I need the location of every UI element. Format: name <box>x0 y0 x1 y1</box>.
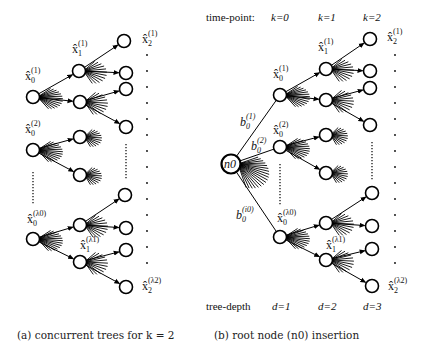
tree-leaf-node <box>364 82 377 95</box>
edge-arrow <box>286 150 320 169</box>
edge-arrow <box>286 225 319 235</box>
panel-b-header: time-point: k=0 k=1 k=2 <box>206 11 381 23</box>
depth-tick-d3: d=3 <box>363 300 382 312</box>
ellipsis-dot <box>394 246 396 248</box>
tree-leaf-node <box>118 35 131 48</box>
edge-arrow <box>39 227 73 237</box>
time-tick-k0: k=0 <box>271 11 289 23</box>
tree-leaf-node <box>120 67 133 80</box>
time-point-label: time-point: <box>206 11 255 23</box>
panel-b-footer: tree-depth d=1 d=2 d=3 <box>206 300 382 312</box>
label-x1-lambda1: x̂1(λ1) <box>326 235 346 254</box>
label-x2-lambda2: x̂2(λ2) <box>142 276 162 295</box>
caption-panel-b: (b) root node (n0) insertion <box>214 329 359 341</box>
ellipsis-dot <box>146 198 148 200</box>
panel-b-trees <box>231 33 379 293</box>
tree <box>274 128 348 183</box>
tree-child-node <box>320 94 333 107</box>
tree-child-node <box>74 169 87 182</box>
ellipsis-dot <box>146 182 148 184</box>
tree-leaf-node <box>120 244 133 257</box>
panel-b-labels: x̂0(1) x̂1(1) x̂2(1) x̂0(2) x̂0(λ0) x̂1(… <box>273 27 408 295</box>
tree-child-node <box>74 219 87 232</box>
ellipsis-dot <box>146 214 148 216</box>
edge-arrow <box>86 91 119 100</box>
tree-depth-label: tree-depth <box>206 300 251 312</box>
tree-root-node <box>274 141 287 154</box>
panel-a-leaf-dots <box>146 54 148 264</box>
diagram-canvas: x̂0(1) x̂1(1) x̂2(1) x̂0(2) x̂0(λ0) x̂1(… <box>0 0 429 363</box>
branch-label-bi0: b0(i0) <box>236 205 254 224</box>
time-tick-k2: k=2 <box>363 11 381 23</box>
label-x0-2: x̂0(2) <box>273 120 289 139</box>
ellipsis-dot <box>146 86 148 88</box>
tree <box>27 130 102 185</box>
tree-leaf-node <box>364 33 377 46</box>
ellipsis-dot <box>394 118 396 120</box>
ellipsis-dot <box>146 150 148 152</box>
root-node-n0: n0 <box>222 155 241 174</box>
ellipsis-dot <box>146 118 148 120</box>
tree-leaf-node <box>366 187 379 200</box>
tree-root-node <box>27 91 40 104</box>
ellipsis-dot <box>146 134 148 136</box>
label-x1-1: x̂1(1) <box>318 37 334 56</box>
ellipsis-dot <box>394 166 396 168</box>
edge-arrow <box>286 240 319 257</box>
tree-leaf-node <box>366 243 379 256</box>
ellipsis-dot <box>146 262 148 264</box>
label-x0-2: x̂0(2) <box>25 119 41 138</box>
label-x1-lambda1: x̂1(λ1) <box>80 235 100 254</box>
tree-leaf-node <box>120 222 133 235</box>
ellipsis-dot <box>146 246 148 248</box>
tree-root-node <box>274 89 287 102</box>
ellipsis-dot <box>394 230 396 232</box>
label-x0-1: x̂0(1) <box>25 66 41 85</box>
tree-leaf-node <box>119 189 132 202</box>
ellipsis-dot <box>394 70 396 72</box>
tree-child-node <box>74 96 87 109</box>
label-x0-lambda0: x̂0(λ0) <box>277 208 297 227</box>
root-branch-edge <box>231 164 280 237</box>
tree-root-node <box>27 233 40 246</box>
ellipsis-dot <box>394 54 396 56</box>
caption-panel-a: (a) concurrent trees for k = 2 <box>17 329 174 341</box>
label-x0-1: x̂0(1) <box>273 64 289 83</box>
ellipsis-dot <box>394 102 396 104</box>
ellipsis-dot <box>394 214 396 216</box>
label-x1-1: x̂1(1) <box>72 39 88 58</box>
label-x0-lambda0: x̂0(λ0) <box>27 209 47 228</box>
tree-root-node <box>274 231 287 244</box>
ellipsis-dot <box>394 198 396 200</box>
depth-tick-d1: d=1 <box>272 300 290 312</box>
ellipsis-dot <box>394 150 396 152</box>
edge-arrow <box>286 137 318 145</box>
edge-arrow <box>39 139 73 148</box>
tree-child-node <box>74 256 87 269</box>
ellipsis-dot <box>146 54 148 56</box>
tree-root-node <box>27 144 40 157</box>
ellipsis-dot <box>146 70 148 72</box>
tree-child-node <box>320 254 333 267</box>
tree-leaf-node <box>366 220 379 233</box>
tree-leaf-node <box>366 280 379 293</box>
tree-child-node <box>320 167 333 180</box>
ellipsis-dot <box>146 102 148 104</box>
ellipsis-dot <box>146 230 148 232</box>
label-x2-1: x̂2(1) <box>142 29 158 48</box>
label-x2-1: x̂2(1) <box>387 27 403 46</box>
ellipsis-dot <box>394 262 396 264</box>
tree-child-node <box>320 217 333 230</box>
tree-child-node <box>73 65 86 78</box>
tree-leaf-node <box>120 121 133 134</box>
root-label: n0 <box>224 157 236 171</box>
tree-child-node <box>320 63 333 76</box>
ellipsis-dot <box>394 134 396 136</box>
edge-arrow <box>39 153 74 171</box>
edge-arrow <box>331 197 365 219</box>
branch-label-b1: b0(1) <box>240 112 256 131</box>
label-x2-lambda2: x̂2(λ2) <box>388 276 408 295</box>
tree-leaf-node <box>364 65 377 78</box>
tree-leaf-node <box>120 83 133 96</box>
panel-a-trees <box>27 35 133 294</box>
